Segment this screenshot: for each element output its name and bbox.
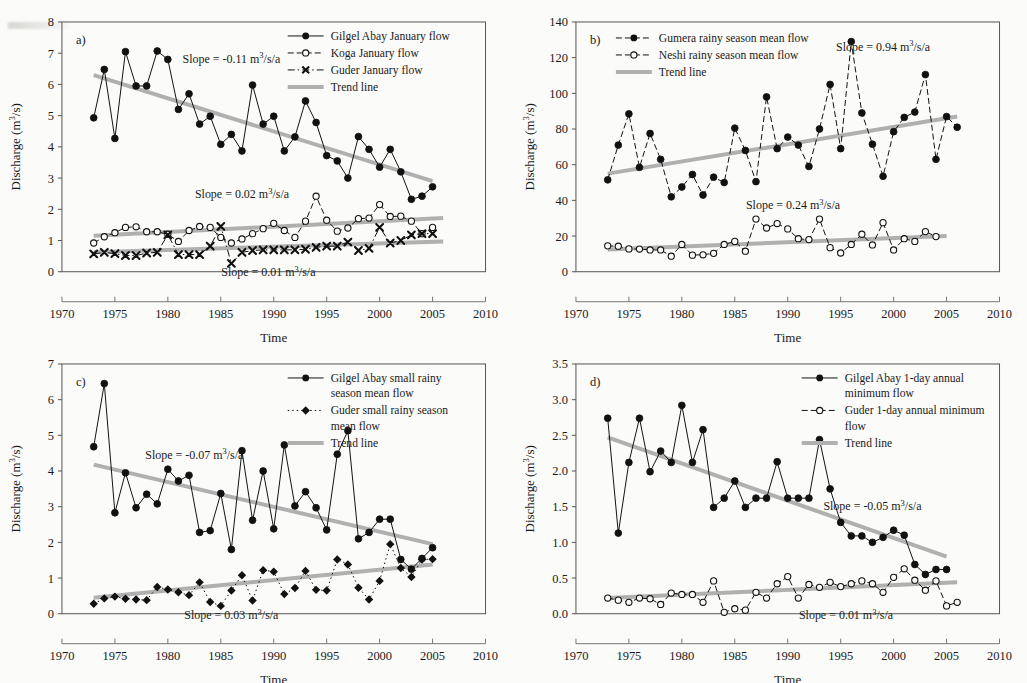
data-point: [228, 546, 235, 553]
panel-letter: d): [589, 375, 599, 389]
y-tick-label: 140: [549, 15, 568, 29]
data-point: [720, 494, 727, 501]
data-point: [111, 135, 118, 142]
data-point: [763, 225, 769, 231]
y-tick-label: 5: [48, 109, 54, 123]
data-point: [344, 175, 351, 182]
legend-label: Trend line: [331, 81, 379, 94]
x-tick-label: 2010: [987, 648, 1012, 662]
data-point: [292, 234, 298, 240]
data-point: [133, 83, 140, 90]
data-point: [408, 196, 415, 203]
data-point: [408, 565, 415, 572]
data-point: [302, 98, 309, 105]
data-point: [848, 241, 854, 247]
y-tick-label: 0.5: [552, 571, 568, 585]
data-point: [334, 228, 340, 234]
data-point: [784, 226, 790, 232]
data-point: [366, 529, 373, 536]
data-point: [408, 218, 414, 224]
legend-marker: [303, 50, 309, 56]
data-point: [784, 573, 790, 579]
data-point: [101, 380, 108, 387]
data-point: [429, 183, 436, 190]
data-point: [260, 226, 266, 232]
data-point: [239, 236, 245, 242]
slope-annotation: Slope = 0.01 m3/s/a: [798, 607, 893, 622]
data-point: [689, 591, 695, 597]
x-tick-label: 1975: [616, 648, 641, 662]
data-point: [911, 109, 918, 116]
y-tick-label: 60: [555, 158, 567, 172]
data-point: [217, 490, 224, 497]
data-point: [805, 163, 812, 170]
x-tick-label: 1995: [314, 648, 339, 662]
data-point: [731, 238, 737, 244]
data-point: [890, 526, 897, 533]
data-point: [207, 113, 214, 120]
data-point: [186, 472, 193, 479]
data-point: [270, 113, 277, 120]
legend-marker: [630, 52, 636, 58]
y-tick-label: 0: [48, 607, 54, 621]
x-tick-label: 2005: [420, 648, 445, 662]
data-point: [752, 178, 759, 185]
chart-panel-b: 0204060801001201401970197519801985199019…: [514, 0, 1027, 342]
data-point: [689, 459, 696, 466]
data-point: [377, 202, 383, 208]
y-tick-label: 2.0: [552, 464, 568, 478]
data-point: [196, 529, 203, 536]
data-point: [376, 515, 383, 522]
data-point: [227, 586, 235, 594]
y-tick-label: 120: [549, 51, 568, 65]
x-axis-title: Time: [774, 671, 801, 683]
data-point: [773, 145, 780, 152]
data-point: [773, 458, 780, 465]
x-tick-label: 1970: [563, 307, 588, 321]
data-point: [943, 602, 949, 608]
x-tick-label: 1970: [49, 648, 74, 662]
legend-label: flow: [844, 420, 866, 433]
data-point: [323, 526, 330, 533]
data-point: [366, 215, 372, 221]
data-point: [741, 504, 748, 511]
slope-annotation: Slope = -0.07 m3/s/a: [145, 446, 244, 461]
data-point: [869, 580, 875, 586]
data-point: [657, 156, 664, 163]
data-point: [249, 517, 256, 524]
data-point: [90, 443, 97, 450]
data-point: [345, 225, 351, 231]
data-point: [111, 509, 118, 516]
data-point: [625, 110, 632, 117]
data-point: [207, 224, 213, 230]
data-point: [154, 500, 161, 507]
data-point: [281, 148, 288, 155]
y-tick-label: 6: [48, 393, 54, 407]
data-point: [270, 567, 278, 575]
legend: Gilgel Abay 1-day annualminimum flowGude…: [801, 372, 984, 450]
data-point: [752, 494, 759, 501]
y-axis-title: Discharge (m3/s): [7, 445, 22, 532]
x-tick-label: 2010: [473, 307, 498, 321]
data-point: [657, 447, 664, 454]
data-point: [292, 133, 299, 140]
legend-label: Guder 1-day annual minimum: [844, 404, 984, 417]
data-point: [164, 465, 171, 472]
legend: Gilgel Abay January flowKoga January flo…: [288, 30, 451, 94]
y-tick-label: 1.0: [552, 536, 568, 550]
data-point: [636, 414, 643, 421]
data-point: [816, 126, 823, 133]
data-point: [355, 247, 362, 254]
legend-label: Guder small rainy season: [331, 404, 449, 417]
data-point: [911, 561, 918, 568]
svg-text:Discharge (m3/s): Discharge (m3/s): [521, 445, 536, 532]
data-point: [678, 184, 685, 191]
y-tick-label: 20: [555, 230, 567, 244]
data-point: [101, 234, 107, 240]
data-point: [742, 607, 748, 613]
y-tick-label: 7: [48, 357, 54, 371]
x-tick-label: 1980: [155, 648, 180, 662]
trend-line: [607, 582, 956, 598]
data-point: [911, 238, 917, 244]
legend-marker: [302, 33, 309, 40]
